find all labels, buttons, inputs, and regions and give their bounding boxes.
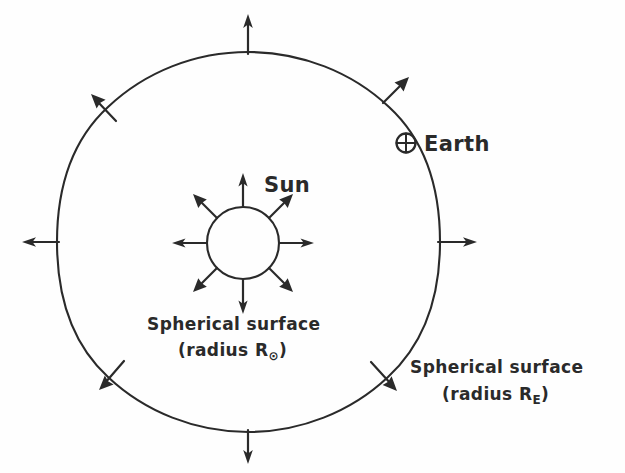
diagram-svg: Sun Earth Spherical surface (radius R⊙) …: [0, 0, 625, 473]
outer-arrow-nw: [91, 94, 116, 121]
inner-surface-radius-suffix: ): [279, 340, 287, 360]
outer-surface-radius-suffix: ): [541, 384, 549, 404]
outer-arrow-e: [438, 237, 477, 247]
outer-surface-caption: Spherical surface (radius RE): [410, 357, 583, 407]
inner-surface-caption-line2: (radius R⊙): [178, 340, 287, 363]
outer-surface-caption-line1: Spherical surface: [410, 357, 583, 377]
outer-arrow-sw-head: [99, 376, 114, 390]
inner-surface-caption: Spherical surface (radius R⊙): [147, 314, 320, 363]
outer-flux-arrows: [22, 14, 477, 464]
earth-label: Earth: [424, 132, 490, 156]
outer-arrow-n: [243, 14, 253, 54]
outer-arrow-ne: [383, 77, 409, 103]
sun-arrow-w: [172, 238, 206, 247]
inner-surface-radius-subscript: ⊙: [268, 349, 278, 363]
outer-arrow-s: [243, 430, 253, 464]
sun-arrow-se: [269, 268, 293, 292]
outer-surface-caption-line2: (radius RE): [442, 384, 549, 407]
inner-surface-radius-prefix: (radius R: [178, 340, 268, 360]
outer-arrow-se: [371, 362, 397, 391]
sun-arrow-s: [238, 280, 247, 314]
diagram-canvas: Sun Earth Spherical surface (radius R⊙) …: [0, 0, 625, 473]
sun-arrow-ne: [269, 194, 293, 218]
outer-arrow-sw-shaft: [105, 361, 124, 383]
outer-arrow-se-shaft: [371, 362, 391, 384]
outer-arrow-w: [22, 237, 59, 247]
outer-arrow-nw-shaft: [97, 101, 116, 121]
sun-label: Sun: [264, 173, 310, 197]
sun-arrow-n: [238, 173, 247, 206]
sun-arrow-sw: [193, 268, 217, 292]
inner-surface-caption-line1: Spherical surface: [147, 314, 320, 334]
earth-marker: [397, 134, 416, 153]
outer-surface-radius-subscript: E: [532, 393, 541, 407]
outer-surface-radius-prefix: (radius R: [442, 384, 532, 404]
sun-arrow-e: [280, 238, 314, 247]
outer-arrow-sw: [99, 361, 124, 390]
sun-arrow-nw: [193, 194, 217, 218]
